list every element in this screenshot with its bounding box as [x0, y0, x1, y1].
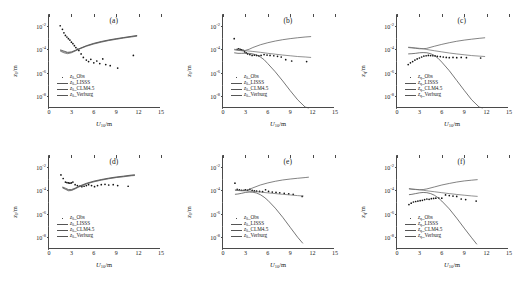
- panel-label-f: (f): [458, 157, 466, 166]
- line-icon: [231, 83, 242, 84]
- x-axis-label: U10/m: [222, 261, 334, 269]
- data-point: [68, 38, 70, 40]
- x-tick-mark: [509, 155, 510, 158]
- data-point: [265, 189, 267, 191]
- data-point: [112, 184, 114, 186]
- subplot-c: 10-210-410-610-803691215zq_Obszq_LISSSzq…: [350, 0, 525, 141]
- line-icon: [405, 89, 416, 90]
- x-tick-label: 3: [418, 250, 421, 256]
- data-point: [466, 57, 468, 59]
- subplot-d: 10-210-410-610-803691215z0_Obsz0_LISSSz0…: [2, 141, 177, 282]
- data-point: [425, 55, 427, 57]
- x-tick-label: 12: [136, 109, 142, 115]
- data-point: [244, 51, 246, 53]
- data-point: [271, 191, 273, 193]
- series-scatter-obs: [407, 55, 481, 66]
- legend-label: z0_Verburg: [70, 232, 93, 240]
- legend-model-name: _Verburg: [422, 232, 441, 238]
- x-tick-label: 12: [484, 109, 490, 115]
- plot-area-b: 10-210-410-610-803691215z0_Obsz0_LISSSz0…: [222, 14, 334, 108]
- data-point: [452, 195, 454, 197]
- data-point: [117, 185, 119, 187]
- series-line-CLM4.5: [235, 190, 304, 196]
- data-point: [71, 41, 73, 43]
- data-point: [85, 185, 87, 187]
- data-point: [263, 54, 265, 56]
- x-tick-label: 0: [222, 250, 225, 256]
- series-line-LISSS: [408, 38, 485, 49]
- y-tick-exponent: -6: [216, 69, 220, 74]
- data-point: [422, 199, 424, 201]
- data-point: [456, 196, 458, 198]
- dot-icon: [410, 218, 412, 220]
- legend-model-name: _Verburg: [248, 91, 267, 97]
- y-axis-label: z0/m: [11, 206, 19, 218]
- line-icon: [57, 224, 68, 225]
- panel-label-c: (c): [458, 16, 466, 25]
- legend-e: z0_Obsz0_LISSSz0_CLM4.5z0_Verburg: [231, 215, 268, 239]
- panel-label-b: (b): [284, 16, 293, 25]
- line-icon: [231, 89, 242, 90]
- legend-a: z0_Obsz0_LISSSz0_CLM4.5z0_Verburg: [57, 74, 94, 98]
- data-point: [480, 57, 482, 59]
- data-point: [442, 56, 444, 58]
- legend-label: z0_Verburg: [70, 91, 93, 99]
- x-axis-unit: /m: [279, 120, 286, 127]
- data-point: [452, 57, 454, 59]
- y-tick-label: 10-2: [210, 22, 220, 30]
- data-point: [445, 194, 447, 196]
- y-axis-label: z0/m: [185, 206, 193, 218]
- y-tick-exponent: -8: [216, 233, 220, 238]
- data-point: [104, 183, 106, 185]
- data-point: [91, 185, 93, 187]
- legend-label: z0_Verburg: [244, 232, 267, 240]
- x-tick-label: 3: [244, 109, 247, 115]
- y-tick-exponent: -4: [42, 45, 46, 50]
- data-point: [249, 54, 251, 56]
- series-line-LISSS: [234, 37, 311, 51]
- data-point: [441, 197, 443, 199]
- x-axis-unit: /m: [105, 261, 112, 268]
- y-tick-exponent: -4: [42, 186, 46, 191]
- data-point: [433, 198, 435, 200]
- x-tick-label: 0: [396, 109, 399, 115]
- line-icon: [57, 236, 68, 237]
- x-tick-label: 15: [506, 109, 512, 115]
- y-tick-exponent: -2: [216, 163, 220, 168]
- data-point: [88, 184, 90, 186]
- data-point: [460, 57, 462, 59]
- x-axis-unit: /m: [279, 261, 286, 268]
- legend-item: zq_Verburg: [405, 233, 442, 239]
- data-point: [439, 56, 441, 58]
- x-tick-label: 12: [310, 109, 316, 115]
- dot-icon: [62, 218, 64, 220]
- y-tick-exponent: -4: [216, 186, 220, 191]
- data-point: [413, 201, 415, 203]
- y-tick-exponent: -6: [42, 69, 46, 74]
- x-tick-label: 9: [289, 250, 292, 256]
- x-tick-label: 6: [440, 250, 443, 256]
- x-tick-label: 15: [506, 250, 512, 256]
- data-point: [62, 28, 64, 30]
- y-tick-label: 10-6: [210, 210, 220, 218]
- series-line-LISSS: [409, 180, 478, 190]
- x-axis-unit: /m: [453, 261, 460, 268]
- line-icon: [405, 95, 416, 96]
- data-point: [251, 55, 253, 57]
- data-point: [275, 192, 277, 194]
- data-point: [100, 184, 102, 186]
- data-point: [108, 184, 110, 186]
- y-tick-label: 10-8: [36, 92, 46, 100]
- data-point: [448, 195, 450, 197]
- data-point: [424, 199, 426, 201]
- data-point: [109, 65, 111, 67]
- subplot-a: 10-210-410-610-803691215z0_Obsz0_LISSSz0…: [2, 0, 177, 141]
- data-point: [448, 57, 450, 59]
- y-tick-exponent: -8: [42, 92, 46, 97]
- data-point: [83, 185, 85, 187]
- data-point: [435, 197, 437, 199]
- data-point: [419, 200, 421, 202]
- data-point: [260, 55, 262, 57]
- y-tick-label: 10-6: [384, 210, 394, 218]
- x-tick-label: 0: [396, 250, 399, 256]
